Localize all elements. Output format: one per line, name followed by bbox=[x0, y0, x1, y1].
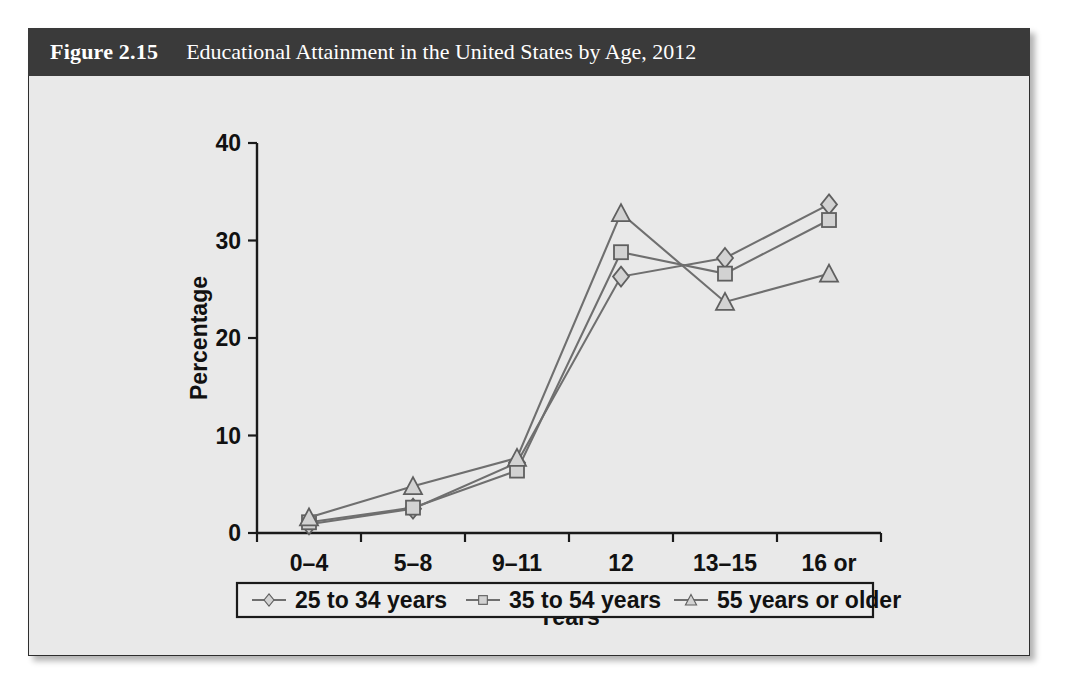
marker-triangle bbox=[820, 265, 838, 282]
marker-square bbox=[406, 501, 420, 515]
marker-triangle bbox=[612, 204, 630, 221]
figure-container: Figure 2.15 Educational Attainment in th… bbox=[28, 28, 1030, 656]
x-tick-label: 12 bbox=[608, 550, 634, 576]
marker-square bbox=[614, 245, 628, 259]
figure-header-bar: Figure 2.15 Educational Attainment in th… bbox=[28, 28, 1030, 76]
series-line-diamond bbox=[309, 204, 829, 524]
series-line-triangle bbox=[309, 213, 829, 517]
marker-triangle bbox=[404, 477, 422, 494]
legend-label: 55 years or older bbox=[717, 587, 901, 613]
y-tick-label: 0 bbox=[228, 520, 241, 546]
y-axis-ticks: 010203040 bbox=[215, 130, 257, 546]
series-triangle bbox=[300, 204, 838, 525]
y-tick-label: 30 bbox=[215, 228, 241, 254]
x-tick-label: 13–15 bbox=[693, 550, 757, 576]
marker-diamond bbox=[821, 194, 837, 214]
series-diamond bbox=[301, 194, 837, 534]
marker-diamond bbox=[717, 248, 733, 268]
x-tick-label: 9–11 bbox=[492, 550, 542, 576]
legend-marker-square bbox=[479, 596, 488, 605]
figure-title: Educational Attainment in the United Sta… bbox=[186, 39, 696, 65]
legend-label: 35 to 54 years bbox=[509, 587, 661, 613]
marker-square bbox=[718, 267, 732, 281]
y-tick-label: 10 bbox=[215, 423, 241, 449]
marker-diamond bbox=[613, 267, 629, 287]
y-tick-label: 40 bbox=[215, 130, 241, 156]
x-tick-label: 0–4 bbox=[290, 550, 329, 576]
y-axis-title: Percentage bbox=[186, 276, 212, 400]
marker-square bbox=[822, 213, 836, 227]
plot-region: 010203040 0–45–89–111213–1516 ormore Per… bbox=[29, 76, 1029, 655]
x-tick-label: 5–8 bbox=[394, 550, 433, 576]
legend-label: 25 to 34 years bbox=[295, 587, 447, 613]
chart-legend: 25 to 34 years35 to 54 years55 years or … bbox=[237, 583, 901, 617]
data-series-layer bbox=[300, 194, 838, 534]
figure-number: Figure 2.15 bbox=[50, 39, 158, 65]
y-tick-label: 20 bbox=[215, 325, 241, 351]
x-tick-label: 16 or bbox=[802, 550, 857, 576]
line-chart: 010203040 0–45–89–111213–1516 ormore Per… bbox=[29, 76, 1029, 655]
